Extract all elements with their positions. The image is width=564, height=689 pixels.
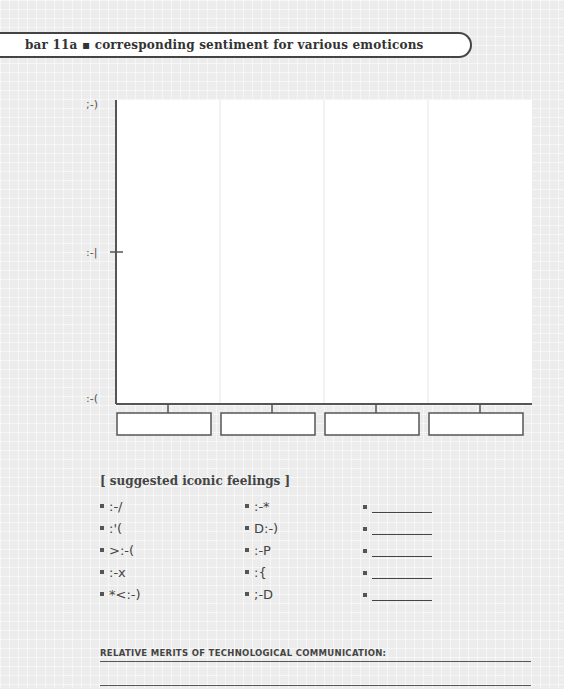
blank-emoticon-entry[interactable]	[363, 589, 433, 603]
bullet-icon	[363, 505, 367, 509]
suggestions-heading: [ suggested iconic feelings ]	[100, 474, 290, 488]
emoticon-label: :-*	[254, 499, 270, 514]
emoticon-item: :{	[245, 565, 267, 580]
emoticon-label: >:-(	[109, 543, 134, 558]
category-label-box[interactable]	[117, 413, 211, 435]
bullet-icon	[363, 571, 367, 575]
blank-line[interactable]	[372, 600, 432, 601]
bullet-icon	[245, 570, 249, 574]
bullet-icon	[363, 549, 367, 553]
bullet-icon	[245, 504, 249, 508]
merits-label: RELATIVE MERITS OF TECHNOLOGICAL COMMUNI…	[100, 648, 386, 658]
blank-line[interactable]	[372, 578, 432, 579]
blank-emoticon-entry[interactable]	[363, 545, 433, 559]
emoticon-label: :{	[254, 565, 267, 580]
emoticon-label: :'(	[109, 521, 122, 536]
bullet-icon	[363, 527, 367, 531]
bullet-icon	[100, 548, 104, 552]
emoticon-label: *<:-)	[109, 587, 141, 602]
emoticon-item: ;-D	[245, 587, 273, 602]
bullet-icon	[100, 592, 104, 596]
emoticon-item: :'(	[100, 521, 122, 536]
emoticon-label: D:-)	[254, 521, 278, 536]
blank-line[interactable]	[372, 512, 432, 513]
emoticon-label: :-P	[254, 543, 271, 558]
emoticon-item: :-/	[100, 499, 122, 514]
bullet-icon	[100, 504, 104, 508]
emoticon-item: :-*	[245, 499, 270, 514]
merits-answer-line-2[interactable]	[100, 685, 531, 686]
category-label-box[interactable]	[325, 413, 419, 435]
y-tick-label: :-(	[86, 392, 98, 405]
blank-line[interactable]	[372, 556, 432, 557]
emoticon-label: :-/	[109, 499, 122, 514]
y-tick-label: :-|	[86, 246, 97, 259]
merits-answer-line-1[interactable]	[100, 661, 531, 662]
bullet-icon	[245, 548, 249, 552]
emoticon-item: :-x	[100, 565, 126, 580]
emoticon-label: :-x	[109, 565, 126, 580]
emoticon-item: D:-)	[245, 521, 278, 536]
blank-emoticon-entry[interactable]	[363, 567, 433, 581]
blank-emoticon-entry[interactable]	[363, 501, 433, 515]
bullet-icon	[100, 526, 104, 530]
category-label-box[interactable]	[429, 413, 523, 435]
category-label-box[interactable]	[221, 413, 315, 435]
emoticon-item: *<:-)	[100, 587, 141, 602]
emoticon-item: >:-(	[100, 543, 134, 558]
y-tick-label: ;-)	[86, 98, 98, 111]
bullet-icon	[245, 526, 249, 530]
bullet-icon	[245, 592, 249, 596]
bullet-icon	[363, 593, 367, 597]
emoticon-item: :-P	[245, 543, 271, 558]
bullet-icon	[100, 570, 104, 574]
emoticon-label: ;-D	[254, 587, 273, 602]
bar-chart: ;-):-|:-(	[0, 0, 564, 460]
blank-line[interactable]	[372, 534, 432, 535]
blank-emoticon-entry[interactable]	[363, 523, 433, 537]
